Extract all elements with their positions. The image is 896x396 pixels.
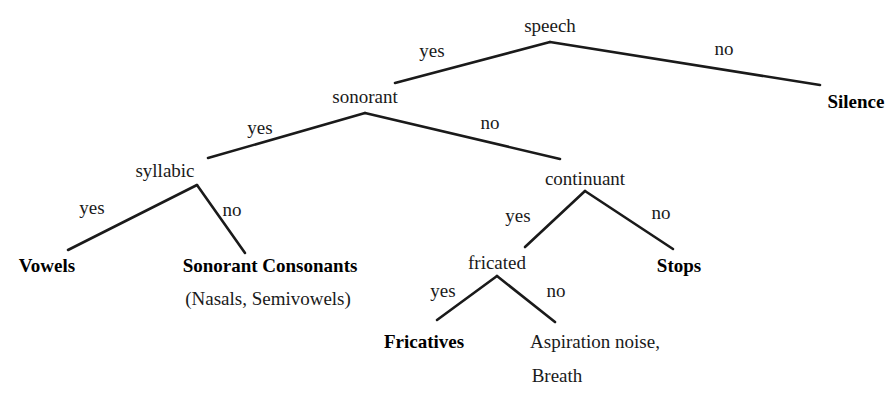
tree-node-sonorant-consonants: Sonorant Consonants — [183, 256, 358, 275]
edge-label-lbl-speech-yes: yes — [419, 41, 444, 60]
tree-edge-continuant-yes — [525, 191, 585, 247]
tree-node-fricated: fricated — [468, 253, 526, 272]
edge-label-lbl-fricated-yes: yes — [430, 281, 455, 300]
tree-node-syllabic: syllabic — [135, 161, 194, 180]
tree-edge-sonorant-no — [365, 113, 560, 159]
tree-node-continuant: continuant — [545, 169, 625, 188]
tree-node-speech: speech — [524, 16, 576, 35]
edge-label-lbl-speech-no: no — [715, 39, 734, 58]
tree-edge-sonorant-yes — [208, 113, 365, 158]
tree-node-aspiration-noise: Aspiration noise, — [530, 332, 660, 351]
tree-node-fricatives: Fricatives — [384, 332, 464, 351]
tree-node-vowels: Vowels — [19, 256, 75, 275]
tree-edge-speech-no — [550, 42, 820, 85]
tree-node-sonorant: sonorant — [332, 87, 397, 106]
tree-edge-syllabic-yes — [68, 185, 197, 250]
tree-node-breath: Breath — [532, 366, 583, 385]
edge-label-lbl-syllabic-no: no — [223, 200, 242, 219]
edge-label-lbl-sonorant-no: no — [481, 113, 500, 132]
tree-edge-speech-yes — [395, 42, 550, 83]
tree-node-stops: Stops — [657, 256, 701, 275]
edge-label-lbl-continuant-yes: yes — [505, 206, 530, 225]
tree-node-silence: Silence — [828, 92, 885, 111]
edge-label-lbl-continuant-no: no — [652, 203, 671, 222]
edge-label-lbl-fricated-no: no — [547, 281, 566, 300]
edge-label-lbl-sonorant-yes: yes — [247, 118, 272, 137]
edge-label-lbl-syllabic-yes: yes — [79, 198, 104, 217]
tree-node-sonorant-consonants-sub: (Nasals, Semivowels) — [185, 289, 351, 308]
speech-decision-tree-diagram: speechsonorantSilencesyllabiccontinuantV… — [0, 0, 896, 396]
